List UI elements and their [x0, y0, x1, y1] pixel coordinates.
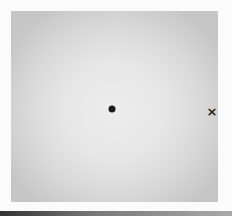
x-marker-icon: × [207, 105, 218, 118]
bottom-edge-strip [0, 211, 232, 216]
clipped-caption-text [0, 0, 232, 3]
center-dot-marker [109, 106, 116, 113]
